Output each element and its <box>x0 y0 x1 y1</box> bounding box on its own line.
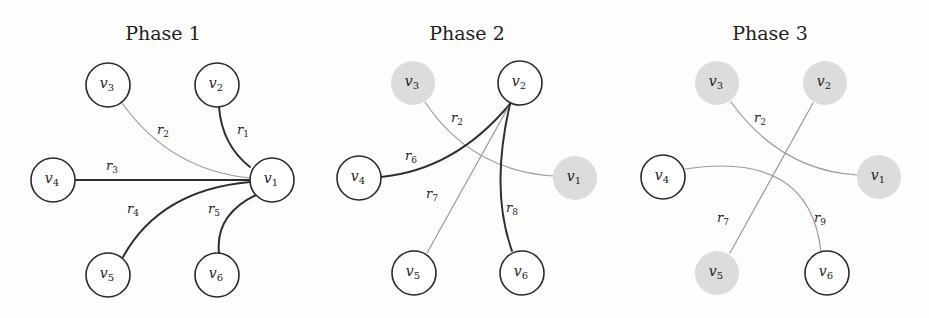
edge-label-r7: r7 <box>426 186 438 203</box>
node-v5: v5 <box>86 253 130 297</box>
node-v1: v1 <box>553 156 597 200</box>
node-v5: v5 <box>392 251 436 295</box>
node-v4: v4 <box>31 158 75 202</box>
edge-label-r1: r1 <box>237 122 249 139</box>
phase-title: Phase 2 <box>429 22 504 44</box>
phase-title: Phase 3 <box>732 22 807 44</box>
edge-r7 <box>427 104 510 253</box>
node-v1: v1 <box>857 155 901 199</box>
node-v6: v6 <box>805 251 849 295</box>
edge-label-r9: r9 <box>814 210 826 227</box>
nodes: v1v2v3v4v5v6 <box>337 61 597 295</box>
node-v3: v3 <box>695 61 739 105</box>
edge-r2 <box>425 102 553 176</box>
node-v4: v4 <box>337 156 381 200</box>
node-v2: v2 <box>803 61 847 105</box>
node-v6: v6 <box>195 253 239 297</box>
edge-r4 <box>123 182 250 257</box>
edge-r2 <box>122 103 250 178</box>
edge-label-r7: r7 <box>717 210 729 227</box>
edges: r2r7r9 <box>685 102 857 253</box>
phase-title: Phase 1 <box>125 22 200 44</box>
phase-panel-1: Phase 1r1r2r3r4r5v1v2v3v4v5v6 <box>31 22 294 297</box>
phase-panel-2: Phase 2r2r6r7r8v1v2v3v4v5v6 <box>337 22 597 295</box>
edges: r2r6r7r8 <box>381 102 553 253</box>
edge-label-r4: r4 <box>127 201 139 218</box>
edge-r7 <box>730 103 813 253</box>
edge-label-r6: r6 <box>405 148 417 165</box>
node-v5: v5 <box>695 251 739 295</box>
edge-label-r3: r3 <box>106 158 118 175</box>
edge-label-r8: r8 <box>506 200 518 217</box>
node-v6: v6 <box>500 251 544 295</box>
edge-r5 <box>219 195 256 253</box>
node-v3: v3 <box>391 61 435 105</box>
node-v1: v1 <box>250 158 294 202</box>
node-v3: v3 <box>86 63 130 107</box>
edges: r1r2r3r4r5 <box>75 103 256 257</box>
edge-label-r2: r2 <box>754 110 766 127</box>
edge-r9 <box>685 166 821 252</box>
edge-r6 <box>381 104 510 177</box>
phase-panel-3: Phase 3r2r7r9v1v2v3v4v5v6 <box>641 22 901 295</box>
edge-label-r2: r2 <box>157 122 169 139</box>
edge-r8 <box>500 104 512 251</box>
edge-label-r2: r2 <box>451 110 463 127</box>
node-v4: v4 <box>641 155 685 199</box>
edge-label-r5: r5 <box>208 201 220 218</box>
phase-diagram: Phase 1r1r2r3r4r5v1v2v3v4v5v6Phase 2r2r6… <box>0 0 929 318</box>
node-v2: v2 <box>498 61 542 105</box>
node-v2: v2 <box>195 63 239 107</box>
